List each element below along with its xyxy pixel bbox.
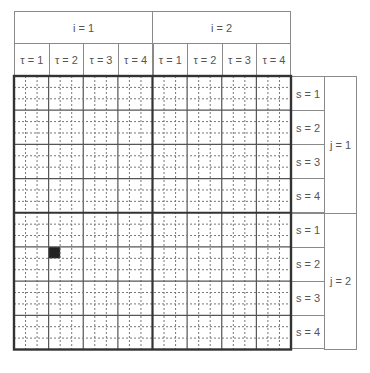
filled-cell — [49, 247, 61, 258]
grid — [0, 0, 370, 373]
